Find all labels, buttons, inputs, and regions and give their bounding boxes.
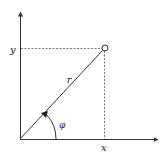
angle-arrow-icon	[41, 111, 48, 118]
y-label: y	[9, 44, 16, 55]
radius-label: r	[67, 75, 72, 85]
point-marker	[102, 45, 108, 51]
x-label: x	[101, 142, 107, 153]
polar-coordinate-diagram: y x r φ	[0, 0, 165, 156]
angle-arc	[46, 114, 56, 139]
angle-label: φ	[59, 120, 66, 130]
